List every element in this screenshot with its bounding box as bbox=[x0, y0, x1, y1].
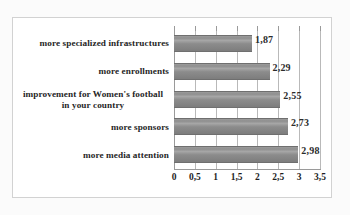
x-tick-label: 0 bbox=[172, 172, 177, 182]
bar-row: 2,55 bbox=[174, 86, 320, 114]
x-tick-label: 2 bbox=[255, 172, 260, 182]
tick-mark-3-5 bbox=[320, 26, 321, 31]
x-tick-label: 1,5 bbox=[231, 172, 243, 182]
category-label-line: more sponsors bbox=[17, 122, 169, 133]
bar-row: 2,73 bbox=[174, 113, 320, 141]
bar bbox=[174, 91, 280, 108]
bar bbox=[174, 146, 298, 163]
bar bbox=[174, 118, 288, 135]
bar-row: 2,98 bbox=[174, 141, 320, 169]
category-label-line: more enrollments bbox=[17, 66, 169, 77]
x-tick-label: 1 bbox=[213, 172, 218, 182]
category-label-line: improvement for Women's football bbox=[17, 89, 169, 100]
bar bbox=[174, 63, 270, 80]
category-label: more sponsors bbox=[17, 122, 169, 133]
bar-value-label: 2,55 bbox=[283, 90, 301, 101]
category-label: more specialized infrastructures bbox=[17, 38, 169, 49]
x-axis-line bbox=[174, 169, 321, 170]
category-axis-labels: more specialized infrastructuresmore enr… bbox=[17, 30, 169, 169]
x-axis-tick-labels: 00,511,522,533,5 bbox=[174, 172, 321, 188]
category-label-line: more media attention bbox=[17, 150, 169, 161]
category-label: improvement for Women's footballin your … bbox=[17, 89, 169, 111]
category-label: more enrollments bbox=[17, 66, 169, 77]
gridline-3-5 bbox=[320, 30, 321, 169]
x-tick-label: 3,5 bbox=[314, 172, 326, 182]
bar bbox=[174, 35, 252, 52]
bar-value-label: 2,73 bbox=[291, 117, 309, 128]
category-label: more media attention bbox=[17, 150, 169, 161]
bar-row: 2,29 bbox=[174, 58, 320, 86]
bar-row: 1,87 bbox=[174, 30, 320, 58]
bar-value-label: 1,87 bbox=[255, 34, 273, 45]
x-tick-label: 2,5 bbox=[272, 172, 284, 182]
chart-frame: 1,872,292,552,732,98 more specialized in… bbox=[12, 17, 332, 198]
plot-area: 1,872,292,552,732,98 bbox=[174, 30, 320, 169]
x-tick-label: 0,5 bbox=[189, 172, 201, 182]
category-label-line: more specialized infrastructures bbox=[17, 38, 169, 49]
bar-value-label: 2,98 bbox=[301, 145, 319, 156]
x-tick-label: 3 bbox=[297, 172, 302, 182]
category-label-line: in your country bbox=[17, 100, 169, 111]
bar-value-label: 2,29 bbox=[273, 62, 291, 73]
